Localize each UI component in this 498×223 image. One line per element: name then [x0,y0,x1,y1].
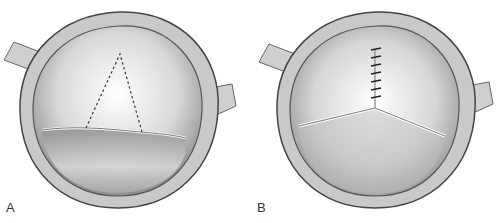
panel-label-b: B [257,200,266,215]
panel-a: A [0,0,249,223]
panel-label-a: A [6,200,15,215]
panel-b: B [249,0,498,223]
valve-illustration-b [249,0,498,223]
valve-illustration-a [0,0,249,223]
